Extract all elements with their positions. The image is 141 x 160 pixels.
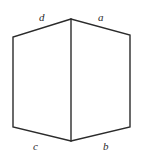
cube-diagram-canvas: d a c b — [0, 0, 141, 160]
edge-label-c: c — [33, 141, 38, 152]
edge-label-b: b — [103, 141, 109, 152]
edge-label-d: d — [39, 12, 45, 23]
cube-outline-svg — [0, 0, 141, 160]
edge-label-a: a — [98, 12, 104, 23]
